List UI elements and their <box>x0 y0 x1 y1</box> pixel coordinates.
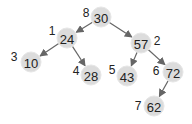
node-order-label: 5 <box>109 63 116 77</box>
node-value: 43 <box>120 70 134 85</box>
tree-node: 308 <box>83 6 111 27</box>
node-value: 24 <box>60 32 74 47</box>
edge-arrow <box>76 22 92 32</box>
tree-node: 103 <box>11 50 41 72</box>
edge-arrow <box>148 50 164 65</box>
tree-node: 726 <box>153 62 183 82</box>
node-value: 30 <box>94 11 108 26</box>
node-value: 57 <box>134 37 148 52</box>
edge-arrow <box>72 46 85 65</box>
node-order-label: 3 <box>11 50 18 64</box>
node-order-label: 7 <box>135 99 142 113</box>
node-order-label: 8 <box>83 6 90 20</box>
nodes: 308241572103284435726627 <box>11 6 183 116</box>
edge-arrow <box>131 52 137 66</box>
tree-node: 627 <box>135 96 164 116</box>
node-order-label: 1 <box>49 24 56 38</box>
edge-arrow <box>40 44 59 56</box>
tree-node: 572 <box>131 33 161 53</box>
node-order-label: 2 <box>154 34 161 48</box>
node-order-label: 6 <box>153 64 160 78</box>
node-value: 62 <box>147 100 161 115</box>
binary-tree-diagram: 308241572103284435726627 <box>0 0 192 124</box>
node-value: 28 <box>84 69 98 84</box>
tree-node: 284 <box>73 64 101 85</box>
node-value: 10 <box>24 56 38 71</box>
tree-node: 435 <box>109 63 137 86</box>
node-value: 72 <box>166 66 180 81</box>
edge-arrow <box>109 22 131 37</box>
node-order-label: 4 <box>73 64 80 78</box>
edge-arrow <box>159 81 168 97</box>
tree-node: 241 <box>49 24 77 48</box>
